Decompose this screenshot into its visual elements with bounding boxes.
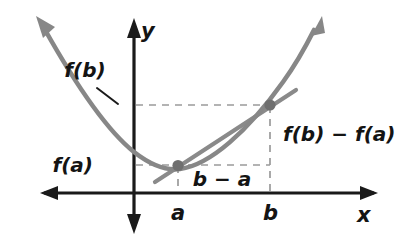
tick-label-b: b	[263, 201, 278, 225]
fb-leader-line	[97, 88, 118, 104]
point-a-marker	[172, 160, 183, 171]
annotation-rise: f(b) − f(a)	[283, 122, 395, 146]
x-axis-right-arrowhead	[360, 186, 378, 200]
annotation-run: b − a	[193, 167, 252, 191]
curve-right-arrowhead	[311, 16, 325, 36]
label-f-of-b: f(b)	[64, 58, 105, 82]
tick-label-a: a	[171, 201, 185, 225]
y-axis-top-arrowhead	[127, 18, 141, 38]
label-f-of-a: f(a)	[53, 153, 93, 177]
x-axis-left-arrowhead	[40, 186, 58, 200]
fb-leader	[97, 88, 118, 104]
curve-left-arrowhead	[36, 16, 55, 38]
parabola-path	[44, 28, 314, 169]
secant-slope-figure: y x a b f(b) f(a) f(b) − f(a) b − a	[0, 0, 410, 246]
y-axis	[127, 18, 141, 234]
y-axis-label: y	[141, 19, 156, 43]
function-curve	[36, 16, 325, 169]
y-axis-bottom-arrowhead	[127, 214, 141, 234]
point-b-marker	[264, 99, 275, 110]
x-axis-label: x	[356, 203, 372, 227]
math-diagram: y x a b f(b) f(a) f(b) − f(a) b − a	[0, 0, 410, 246]
